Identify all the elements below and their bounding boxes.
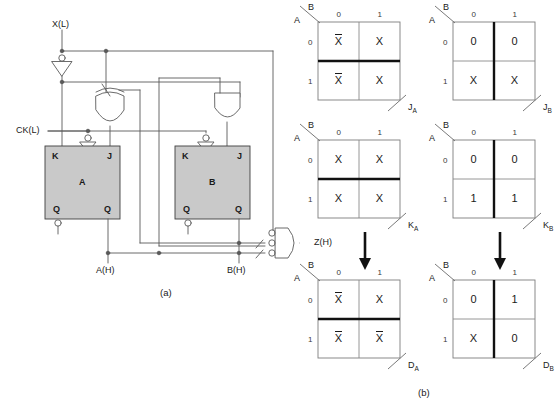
kmap-kb-cell-0-1: 0 — [509, 153, 521, 165]
kmap-kb-cell-1-0: 1 — [468, 192, 480, 204]
kmap-ja-col-var: B — [308, 2, 314, 12]
flipflop-b-pin-q: Q — [235, 205, 242, 214]
kmap-ka-row-header-1: 1 — [308, 195, 312, 204]
kmap-da-row-header-0: 0 — [308, 296, 312, 305]
kmap-ka-output-label: KA — [408, 220, 418, 232]
kmap-da-cell-0-0: X — [333, 293, 345, 305]
kmap-da-output-label: DA — [408, 360, 419, 372]
kmap-da-cell-1-1: X — [374, 332, 386, 344]
kmap-ja — [292, 2, 420, 122]
kmap-ja-cell-1-1: X — [374, 74, 386, 86]
kmap-ka-col-var: B — [308, 120, 314, 130]
flipflop-a-pin-j: J — [107, 152, 112, 161]
flipflop-a-pin-qbar: Q — [53, 205, 60, 214]
kmap-kb — [427, 120, 555, 240]
kmap-kb-row-header-1: 1 — [443, 195, 447, 204]
kmap-ja-cell-0-0: X — [333, 35, 345, 47]
kmap-kb-row-var: A — [429, 133, 435, 143]
kmap-db-col-var: B — [443, 260, 449, 270]
flipflop-a-pin-q: Q — [104, 205, 111, 214]
kmap-db-cell-1-0: X — [468, 332, 480, 344]
kmap-ja-row-header-1: 1 — [308, 77, 312, 86]
kmap-kb-col-var: B — [443, 120, 449, 130]
panel-b-caption: (b) — [418, 387, 430, 398]
kmap-ka-col-header-1: 1 — [378, 128, 382, 137]
kmap-jb-cell-1-1: X — [509, 74, 521, 86]
kmap-ja-row-var: A — [294, 15, 300, 25]
clock-input-label: CK(L) — [16, 126, 40, 135]
kmap-ja-row-header-0: 0 — [308, 38, 312, 47]
kmap-ka-cell-0-1: X — [374, 153, 386, 165]
kmap-jb-cell-1-0: X — [468, 74, 480, 86]
kmap-ja-output-label: JA — [408, 102, 417, 114]
flipflop-b-pin-k: K — [182, 152, 189, 161]
kmap-kb-cell-0-0: 0 — [468, 153, 480, 165]
kmap-db-cell-0-1: 1 — [509, 293, 521, 305]
kmap-ka — [292, 120, 420, 240]
kmap-jb-cell-0-0: 0 — [468, 35, 480, 47]
kmap-db — [427, 260, 555, 380]
flipflop-b-title: B — [209, 178, 216, 187]
kmap-db-output-label: DB — [543, 360, 554, 372]
kmap-db-row-var: A — [429, 273, 435, 283]
conversion-arrow-a — [357, 232, 373, 272]
kmap-kb-output-label: KB — [543, 220, 553, 232]
kmap-db-row-header-0: 0 — [443, 296, 447, 305]
kmap-jb-row-var: A — [429, 15, 435, 25]
kmap-jb-col-var: B — [443, 2, 449, 12]
kmap-da-row-var: A — [294, 273, 300, 283]
kmap-ka-row-header-0: 0 — [308, 156, 312, 165]
kmap-da-cell-0-1: X — [374, 293, 386, 305]
kmap-jb-row-header-0: 0 — [443, 38, 447, 47]
kmap-ka-col-header-0: 0 — [337, 128, 341, 137]
kmap-db-cell-1-1: 0 — [509, 332, 521, 344]
kmap-da-cell-1-0: X — [333, 332, 345, 344]
kmap-jb-cell-0-1: 0 — [509, 35, 521, 47]
kmap-ka-cell-1-1: X — [374, 192, 386, 204]
kmap-jb-row-header-1: 1 — [443, 77, 447, 86]
kmap-jb-col-header-1: 1 — [513, 10, 517, 19]
kmap-db-col-header-1: 1 — [513, 268, 517, 277]
kmap-ka-row-var: A — [294, 133, 300, 143]
flipflop-b-pin-j: J — [237, 152, 242, 161]
kmap-db-row-header-1: 1 — [443, 335, 447, 344]
kmap-ka-cell-0-0: X — [333, 153, 345, 165]
kmap-da-col-header-0: 0 — [337, 268, 341, 277]
flipflop-a-title: A — [79, 178, 86, 187]
kmap-kb-cell-1-1: 1 — [509, 192, 521, 204]
kmap-ja-col-header-0: 0 — [337, 10, 341, 19]
b-output-label: B(H) — [227, 266, 246, 275]
kmap-jb-output-label: JB — [543, 102, 552, 114]
kmap-ja-cell-0-1: X — [374, 35, 386, 47]
kmap-ja-cell-1-0: X — [333, 74, 345, 86]
kmap-kb-col-header-0: 0 — [472, 128, 476, 137]
kmap-kb-col-header-1: 1 — [513, 128, 517, 137]
kmap-da-col-header-1: 1 — [378, 268, 382, 277]
kmap-jb-col-header-0: 0 — [472, 10, 476, 19]
kmap-ja-col-header-1: 1 — [378, 10, 382, 19]
circuit-schematic — [0, 0, 300, 300]
conversion-arrow-b — [492, 232, 508, 272]
kmap-ka-cell-1-0: X — [333, 192, 345, 204]
a-output-label: A(H) — [96, 266, 115, 275]
kmap-jb — [427, 2, 555, 122]
kmap-da — [292, 260, 420, 380]
kmap-kb-row-header-0: 0 — [443, 156, 447, 165]
kmap-db-cell-0-0: 0 — [468, 293, 480, 305]
kmap-da-row-header-1: 1 — [308, 335, 312, 344]
flipflop-a-pin-k: K — [52, 152, 59, 161]
kmap-da-col-var: B — [308, 260, 314, 270]
panel-a-caption: (a) — [160, 287, 172, 298]
kmap-db-col-header-0: 0 — [472, 268, 476, 277]
x-input-label: X(L) — [52, 20, 69, 29]
flipflop-b-pin-qbar: Q — [183, 205, 190, 214]
